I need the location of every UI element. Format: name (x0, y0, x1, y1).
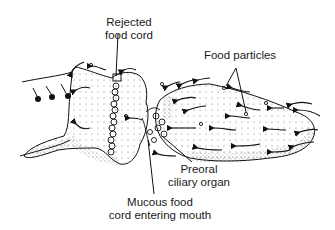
posterior-lobe (24, 67, 148, 164)
preoral-ciliary-organ-label: Preoral ciliary organ (162, 163, 236, 189)
label-line: cord entering mouth (107, 209, 213, 222)
anterior-lobe (156, 84, 315, 161)
label-line: Rejected (96, 16, 162, 29)
label-line: food cord (96, 29, 162, 42)
label-line: Mucous food (107, 196, 213, 209)
expelled-particles (33, 84, 71, 102)
label-line: Food particles (200, 49, 280, 62)
rejected-food-cord-label: Rejected food cord (96, 16, 162, 42)
label-line: Preoral (162, 163, 236, 176)
label-line: ciliary organ (162, 176, 236, 189)
mucous-food-cord-label: Mucous food cord entering mouth (107, 196, 213, 222)
food-particles-label: Food particles (200, 49, 280, 62)
